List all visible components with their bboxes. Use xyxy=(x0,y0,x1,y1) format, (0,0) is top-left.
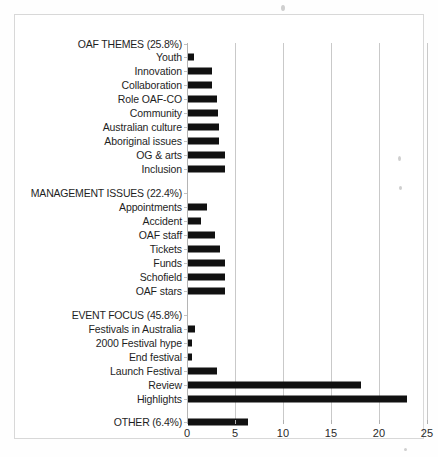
category-tick xyxy=(184,207,187,208)
x-tick-label: 20 xyxy=(373,427,385,439)
category-tick xyxy=(184,315,187,316)
bar xyxy=(188,67,212,74)
category-label: End festival xyxy=(129,351,182,362)
category-label: OAF stars xyxy=(136,285,182,296)
bar-row: OAF stars xyxy=(187,281,427,300)
category-tick xyxy=(184,343,187,344)
category-label: OG & arts xyxy=(136,149,182,160)
category-label: Tickets xyxy=(150,243,182,254)
scan-speck xyxy=(281,5,285,11)
category-label: Collaboration xyxy=(121,79,182,90)
category-tick xyxy=(184,57,187,58)
category-label: Australian culture xyxy=(103,121,182,132)
category-tick xyxy=(184,235,187,236)
category-tick xyxy=(184,44,187,45)
bar xyxy=(188,109,218,116)
scan-speck xyxy=(398,156,401,161)
x-tick-label: 10 xyxy=(277,427,289,439)
category-label: Review xyxy=(148,379,182,390)
category-tick xyxy=(184,71,187,72)
bar xyxy=(188,381,361,388)
bar xyxy=(188,395,407,402)
category-label: Community xyxy=(130,107,182,118)
group-heading-label: MANAGEMENT ISSUES (22.4%) xyxy=(31,187,182,198)
tick-mark-15 xyxy=(331,420,332,424)
category-label: Aboriginal issues xyxy=(104,135,182,146)
group-heading-label: EVENT FOCUS (45.8%) xyxy=(72,309,182,320)
bar xyxy=(188,137,219,144)
bar xyxy=(188,325,195,332)
bar xyxy=(188,339,192,346)
scan-speck xyxy=(404,448,407,451)
category-tick xyxy=(184,141,187,142)
bar xyxy=(188,165,225,172)
category-tick xyxy=(184,371,187,372)
category-tick xyxy=(184,99,187,100)
tick-mark-10 xyxy=(283,420,284,424)
group-heading-label: OTHER (6.4%) xyxy=(114,416,182,427)
gridline-25 xyxy=(427,43,428,420)
category-tick xyxy=(184,193,187,194)
bar-row: Inclusion xyxy=(187,159,427,178)
x-tick-label: 0 xyxy=(184,427,190,439)
category-label: Funds xyxy=(153,257,182,268)
category-tick xyxy=(184,249,187,250)
category-tick xyxy=(184,85,187,86)
bar-row: Highlights xyxy=(187,389,427,408)
scan-speck xyxy=(399,186,402,190)
category-tick xyxy=(184,127,187,128)
category-tick xyxy=(184,357,187,358)
category-label: Appointments xyxy=(119,201,182,212)
bar xyxy=(188,245,220,252)
plot-area: OAF THEMES (25.8%)YouthInnovationCollabo… xyxy=(187,43,427,420)
bar xyxy=(188,217,201,224)
category-tick xyxy=(184,113,187,114)
category-tick xyxy=(184,263,187,264)
x-tick-label: 25 xyxy=(421,427,433,439)
category-label: OAF staff xyxy=(139,229,182,240)
category-label: Schofield xyxy=(140,271,182,282)
bar xyxy=(188,259,225,266)
category-label: Highlights xyxy=(137,393,182,404)
category-tick xyxy=(184,277,187,278)
bar xyxy=(188,273,225,280)
bar xyxy=(188,418,248,425)
category-label: Festivals in Australia xyxy=(88,323,182,334)
bar xyxy=(188,151,225,158)
tick-mark-20 xyxy=(379,420,380,424)
category-label: Role OAF-CO xyxy=(118,93,182,104)
category-tick xyxy=(184,169,187,170)
category-tick xyxy=(184,291,187,292)
category-label: Innovation xyxy=(135,65,182,76)
bar xyxy=(188,81,212,88)
bar xyxy=(188,123,219,130)
category-label: Inclusion xyxy=(141,163,182,174)
category-tick xyxy=(184,329,187,330)
category-label: Youth xyxy=(156,51,182,62)
category-tick xyxy=(184,155,187,156)
bar xyxy=(188,203,207,210)
tick-mark-5 xyxy=(235,420,236,424)
category-label: 2000 Festival hype xyxy=(96,337,182,348)
bar xyxy=(188,353,192,360)
category-tick xyxy=(184,385,187,386)
bar xyxy=(188,231,215,238)
group-heading-label: OAF THEMES (25.8%) xyxy=(78,38,182,49)
x-tick-label: 15 xyxy=(325,427,337,439)
bar xyxy=(188,53,194,60)
bar xyxy=(188,287,225,294)
category-label: Launch Festival xyxy=(110,365,182,376)
tick-mark-25 xyxy=(427,420,428,424)
chart-frame: OAF THEMES (25.8%)YouthInnovationCollabo… xyxy=(14,14,424,439)
category-label: Accident xyxy=(143,215,182,226)
bar xyxy=(188,95,217,102)
bar xyxy=(188,367,217,374)
category-tick xyxy=(184,399,187,400)
bar-row: OTHER (6.4%) xyxy=(187,412,427,431)
category-tick xyxy=(184,221,187,222)
tick-mark-0 xyxy=(187,420,188,424)
x-tick-label: 5 xyxy=(232,427,238,439)
